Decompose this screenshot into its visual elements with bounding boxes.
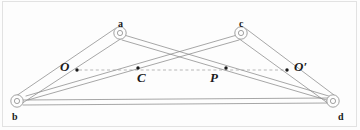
point-dot-P [224, 66, 227, 69]
linkage-figure: bacdOCPO′ [0, 0, 360, 130]
bar-b-d-lower [23, 103, 331, 105]
joint-b [11, 95, 23, 107]
joint-d [327, 95, 339, 107]
point-dot-O [75, 68, 78, 71]
joint-label-d: d [338, 112, 344, 122]
bar-c-d-upper [245, 28, 334, 95]
diagonal-c-b-upper [26, 35, 237, 96]
point-label-C: C [137, 71, 146, 84]
joint-ring-outer-d [327, 95, 339, 107]
bar-b-a-lower [21, 38, 122, 104]
joint-label-a: a [118, 19, 123, 29]
point-label-O-prime: O′ [294, 60, 307, 73]
point-dot-O-prime [285, 68, 288, 71]
point-label-O: O [60, 60, 69, 73]
point-label-P: P [210, 71, 218, 84]
joint-label-b: b [12, 112, 18, 122]
bar-b-d-upper [23, 98, 331, 100]
bar-c-d-lower [238, 38, 329, 104]
joint-ring-outer-b [11, 95, 23, 107]
joint-label-c: c [239, 19, 243, 29]
marked-point-dots [75, 66, 288, 71]
